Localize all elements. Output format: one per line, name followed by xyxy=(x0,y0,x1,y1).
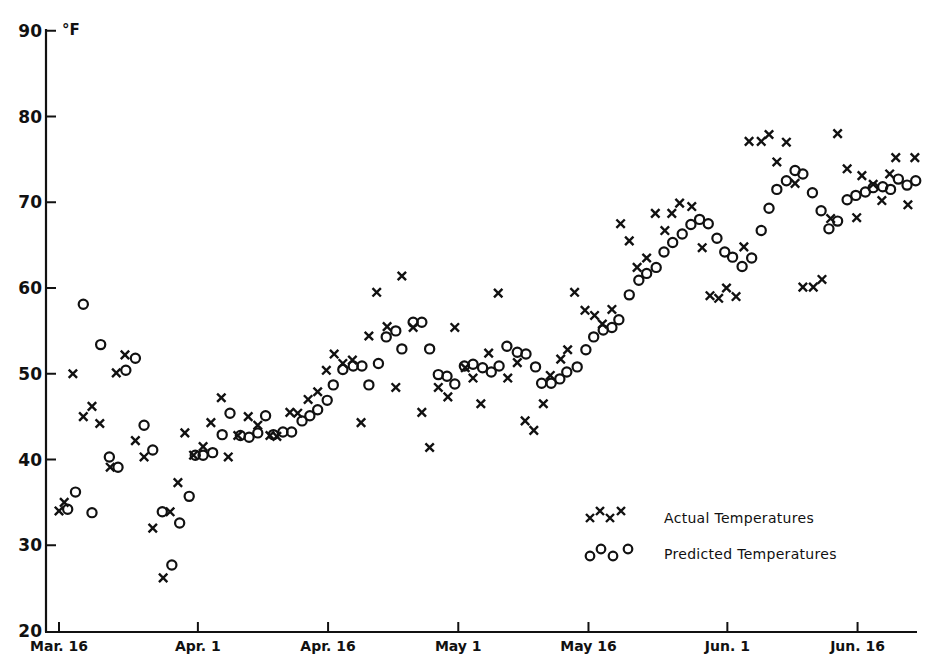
actual-point xyxy=(706,292,714,300)
actual-point xyxy=(313,388,321,396)
actual-point xyxy=(757,137,765,145)
y-tick-label: 80 xyxy=(18,107,42,127)
predicted-point xyxy=(96,340,105,349)
actual-point xyxy=(773,158,781,166)
y-tick-label: 60 xyxy=(18,278,42,298)
predicted-point xyxy=(139,421,148,430)
predicted-point xyxy=(537,379,546,388)
actual-point xyxy=(633,263,641,271)
actual-point xyxy=(557,355,565,363)
predicted-point xyxy=(589,332,598,341)
legend: Actual Temperatures Predicted Temperatur… xyxy=(586,507,837,562)
x-tick-label: Jun. 16 xyxy=(829,638,885,654)
actual-point xyxy=(79,412,87,420)
actual-point xyxy=(357,418,365,426)
actual-point xyxy=(330,350,338,358)
predicted-point xyxy=(364,380,373,389)
actual-point xyxy=(530,426,538,434)
actual-point xyxy=(392,383,400,391)
x-tick-label: May 16 xyxy=(560,638,616,654)
actual-point xyxy=(88,402,96,410)
predicted-point xyxy=(185,492,194,501)
actual-point xyxy=(765,130,773,138)
actual-point xyxy=(217,394,225,402)
actual-point xyxy=(140,453,148,461)
predicted-point xyxy=(208,448,217,457)
actual-point xyxy=(513,358,521,366)
actual-point xyxy=(570,288,578,296)
predicted-point xyxy=(757,226,766,235)
predicted-point xyxy=(686,220,695,229)
actual-point xyxy=(434,383,442,391)
predicted-point xyxy=(105,452,114,461)
predicted-point xyxy=(581,345,590,354)
predicted-point xyxy=(391,326,400,335)
predicted-point xyxy=(87,508,96,517)
actual-point xyxy=(782,138,790,146)
actual-point xyxy=(799,283,807,291)
actual-point xyxy=(688,202,696,210)
temperature-scatter-chart: 2030405060708090 Mar. 16Apr. 1Apr. 16May… xyxy=(0,0,941,670)
actual-point xyxy=(675,199,683,207)
x-tick-label: Apr. 1 xyxy=(175,638,221,654)
x-tick-label: Jun. 1 xyxy=(704,638,750,654)
actual-point xyxy=(745,137,753,145)
predicted-point xyxy=(652,263,661,272)
x-tick-label: Mar. 16 xyxy=(30,638,88,654)
actual-point xyxy=(469,374,477,382)
predicted-point xyxy=(738,262,747,271)
predicted-point xyxy=(642,269,651,278)
predicted-point xyxy=(329,380,338,389)
actual-point xyxy=(911,153,919,161)
predicted-point xyxy=(798,169,807,178)
actual-point xyxy=(740,243,748,251)
actual-point xyxy=(425,443,433,451)
actual-point xyxy=(418,408,426,416)
predicted-point xyxy=(218,430,227,439)
actual-point xyxy=(698,243,706,251)
predicted-point xyxy=(521,349,530,358)
predicted-point xyxy=(374,359,383,368)
actual-point xyxy=(892,153,900,161)
predicted-point xyxy=(728,253,737,262)
axes xyxy=(45,29,917,632)
predicted-point xyxy=(261,411,270,420)
actual-point xyxy=(451,323,459,331)
actual-point xyxy=(121,351,129,359)
predicted-point xyxy=(71,487,80,496)
predicted-point xyxy=(531,362,540,371)
predicted-point xyxy=(323,396,332,405)
predicted-point xyxy=(175,518,184,527)
predicted-point xyxy=(442,372,451,381)
y-tick-label: 40 xyxy=(18,450,42,470)
predicted-point xyxy=(450,379,459,388)
actual-point xyxy=(843,165,851,173)
actual-point xyxy=(722,284,730,292)
actual-point xyxy=(651,209,659,217)
actual-point xyxy=(504,374,512,382)
predicted-point xyxy=(659,247,668,256)
predicted-point xyxy=(131,354,140,363)
predicted-point xyxy=(911,176,920,185)
y-tick-label: 30 xyxy=(18,535,42,555)
predicted-point xyxy=(338,365,347,374)
predicted-point xyxy=(634,276,643,285)
actual-point xyxy=(668,209,676,217)
actual-point xyxy=(112,369,120,377)
actual-point xyxy=(207,418,215,426)
actual-point xyxy=(365,332,373,340)
actual-point xyxy=(477,400,485,408)
actual-point xyxy=(149,524,157,532)
actual-point xyxy=(885,170,893,178)
actual-point xyxy=(159,574,167,582)
predicted-point xyxy=(678,229,687,238)
actual-point xyxy=(563,346,571,354)
predicted-point xyxy=(382,332,391,341)
predicted-point xyxy=(502,342,511,351)
actual-point xyxy=(304,395,312,403)
x-tick-label: Apr. 16 xyxy=(300,638,355,654)
predicted-point xyxy=(397,344,406,353)
o-marker-icon xyxy=(586,545,633,561)
predicted-point xyxy=(225,409,234,418)
legend-label-predicted: Predicted Temperatures xyxy=(664,546,837,562)
